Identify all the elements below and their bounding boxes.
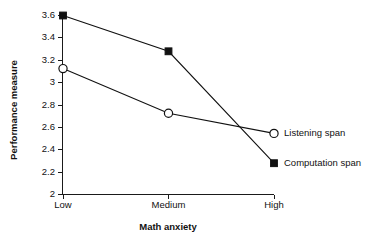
data-point-marker [60, 12, 67, 19]
legend-label-computation-span: Computation span [284, 157, 361, 168]
markers-listening-span [59, 65, 278, 138]
data-point-marker [164, 109, 172, 117]
line-chart: Performance measure Math anxiety 2 2.2 2… [0, 0, 391, 237]
x-tick-label-low: Low [54, 199, 72, 210]
series-line-computation-span [63, 16, 274, 164]
data-point-marker [271, 160, 278, 167]
x-tick-label-medium: Medium [152, 199, 186, 210]
y-tick-label: 2.4 [42, 143, 55, 154]
y-tick-label: 2 [50, 188, 55, 199]
x-axis-title: Math anxiety [139, 221, 197, 232]
data-point-marker [270, 129, 278, 137]
y-tick-label: 2.8 [42, 99, 55, 110]
y-tick-labels: 2 2.2 2.4 2.6 2.8 3 3.2 3.4 3.6 [42, 9, 55, 199]
data-point-marker [165, 48, 172, 55]
y-tick-label: 3 [50, 76, 55, 87]
y-axis-title: Performance measure [8, 60, 19, 160]
legend-label-listening-span: Listening span [284, 127, 345, 138]
y-tick-label: 3.6 [42, 9, 55, 20]
x-tick-labels: Low Medium High [54, 199, 283, 210]
y-tick-label: 3.4 [42, 31, 55, 42]
data-point-marker [59, 65, 67, 73]
y-tick-group [58, 16, 63, 195]
markers-computation-span [60, 12, 278, 167]
y-tick-label: 2.6 [42, 121, 55, 132]
series-line-listening-span [63, 69, 274, 134]
x-tick-label-high: High [264, 199, 284, 210]
y-tick-label: 2.2 [42, 166, 55, 177]
chart-container: Performance measure Math anxiety 2 2.2 2… [0, 0, 391, 237]
y-tick-label: 3.2 [42, 54, 55, 65]
